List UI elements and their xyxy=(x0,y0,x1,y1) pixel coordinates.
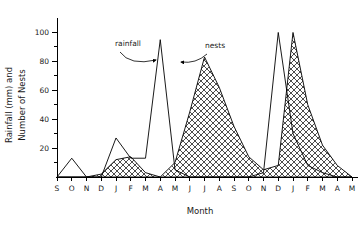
y-tick-label: 100 xyxy=(35,28,50,37)
x-tick-label-17: F xyxy=(306,184,310,193)
data-series-group xyxy=(57,32,352,177)
y-axis-title-line2: Number of Nests xyxy=(17,69,27,141)
x-tick-label-0: S xyxy=(55,184,60,193)
x-tick-label-19: A xyxy=(335,184,341,193)
y-tick-label: 20 xyxy=(39,144,49,153)
x-tick-label-7: A xyxy=(158,184,164,193)
x-tick-label-18: M xyxy=(319,184,325,193)
y-tick-label: 80 xyxy=(39,57,49,66)
x-tick-label-6: M xyxy=(142,184,148,193)
x-tick-label-15: D xyxy=(275,184,281,193)
chart-container: 20406080100 SONDJFMAMJJASONDJFMAM rainfa… xyxy=(0,0,364,225)
annotation-label-nests: nests xyxy=(205,41,225,50)
y-tick-label: 40 xyxy=(39,115,49,124)
x-tick-label-10: J xyxy=(202,184,205,193)
x-tick-label-2: N xyxy=(84,184,90,193)
x-tick-label-11: A xyxy=(217,184,223,193)
x-tick-label-12: S xyxy=(232,184,237,193)
series-nests-area xyxy=(57,32,352,177)
x-tick-label-14: N xyxy=(261,184,267,193)
rainfall-nests-chart: 20406080100 SONDJFMAMJJASONDJFMAM rainfa… xyxy=(0,0,364,225)
x-tick-label-3: D xyxy=(98,184,104,193)
x-tick-label-8: M xyxy=(172,184,178,193)
x-axis-title: Month xyxy=(187,206,214,216)
x-axis: SONDJFMAMJJASONDJFMAM xyxy=(55,177,358,193)
y-tick-label: 60 xyxy=(39,86,49,95)
x-tick-label-20: M xyxy=(349,184,355,193)
x-tick-label-5: F xyxy=(129,184,133,193)
x-tick-label-1: O xyxy=(69,184,75,193)
x-tick-label-9: J xyxy=(188,184,191,193)
annotation-label-rainfall: rainfall xyxy=(115,39,141,48)
x-tick-label-4: J xyxy=(114,184,117,193)
x-tick-label-16: J xyxy=(291,184,294,193)
annotations-group: rainfallnests xyxy=(115,39,225,62)
x-tick-label-13: O xyxy=(246,184,252,193)
y-axis: 20406080100 xyxy=(35,18,57,177)
y-axis-title-line1: Rainfall (mm) and xyxy=(4,67,14,143)
annotation-arrow-rainfall xyxy=(120,52,156,62)
